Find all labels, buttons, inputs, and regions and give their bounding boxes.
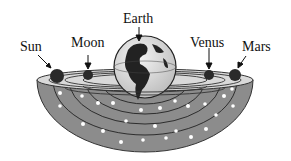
venus-label: Venus bbox=[190, 36, 224, 50]
moon-body bbox=[83, 70, 93, 80]
earth-label: Earth bbox=[123, 12, 153, 26]
geocentric-diagram: Sun Moon Earth Venus Mars bbox=[0, 0, 291, 161]
sun-label: Sun bbox=[20, 40, 42, 54]
sun-body bbox=[50, 69, 64, 83]
mars-body bbox=[229, 69, 241, 81]
moon-label: Moon bbox=[71, 36, 104, 50]
venus-body bbox=[204, 70, 214, 80]
mars-label: Mars bbox=[242, 40, 271, 54]
